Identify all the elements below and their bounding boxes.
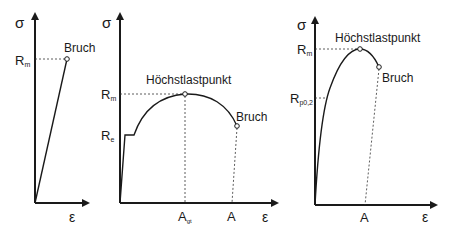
break-point (65, 57, 70, 62)
break-point (377, 65, 382, 70)
rp02-label: Rp0,2 (290, 91, 313, 107)
agt-label: Agt (178, 209, 192, 224)
x-axis-label: ε (69, 209, 75, 225)
diagram-ductile-no-yield-point: σ ε Rm Rp0,2 Höchstlastpunkt Bruch A (290, 16, 436, 225)
a-dashed-line (365, 69, 379, 205)
stress-curve (35, 59, 67, 203)
x-axis-label: ε (422, 209, 428, 225)
rm-label: Rm (15, 53, 30, 68)
max-load-label: Höchstlastpunkt (335, 31, 421, 45)
a-label: A (227, 209, 236, 224)
max-load-point (183, 92, 188, 97)
max-load-label: Höchstlastpunkt (146, 73, 232, 87)
stress-curve (315, 49, 379, 205)
y-axis-label: σ (297, 16, 307, 33)
a-dashed-line (232, 128, 237, 203)
a-label: A (360, 210, 369, 225)
break-label: Bruch (382, 71, 413, 85)
stress-curve (120, 94, 237, 203)
break-point (235, 124, 240, 129)
break-label: Bruch (64, 41, 95, 55)
diagram-ductile-yield-point: σ ε Rm Re Höchstlastpunkt Bruch Agt A (101, 14, 277, 225)
diagram-brittle: σ ε Rm Bruch (15, 14, 95, 225)
rm-label: Rm (101, 87, 116, 102)
max-load-point (358, 47, 363, 52)
x-axis-label: ε (262, 209, 268, 225)
y-axis-label: σ (15, 14, 25, 31)
re-label: Re (101, 128, 114, 143)
stress-strain-diagrams: σ ε Rm Bruch σ ε Rm Re Höchstlastpunkt B… (0, 0, 460, 236)
rm-label: Rm (297, 42, 312, 57)
y-axis-label: σ (102, 14, 112, 31)
break-label: Bruch (236, 110, 267, 124)
